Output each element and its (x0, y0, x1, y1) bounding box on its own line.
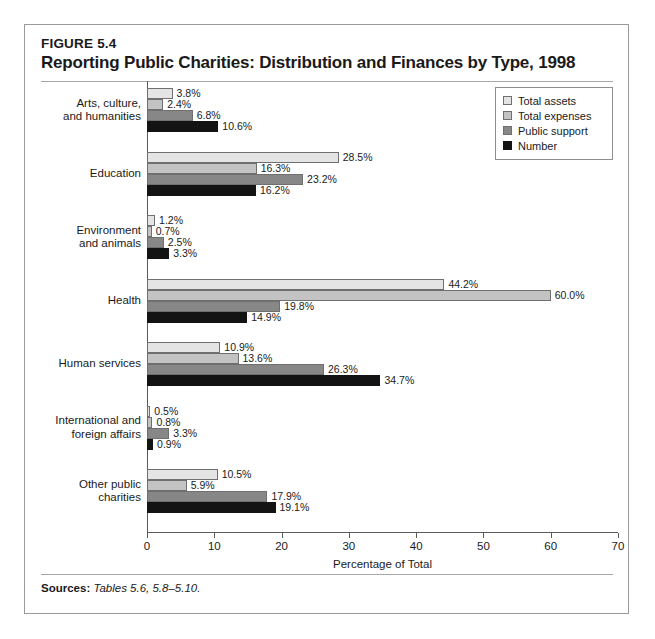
bar-value-label: 6.8% (197, 110, 221, 121)
bar-0 (147, 342, 220, 353)
category-label-line: Arts, culture, (0, 97, 141, 111)
bar-3 (147, 185, 256, 196)
x-axis-line (147, 532, 618, 533)
source-divider (41, 574, 613, 575)
category-label: International andforeign affairs (0, 414, 141, 441)
x-axis-tick (147, 533, 148, 538)
bar-2 (147, 364, 324, 375)
bar-0 (147, 279, 444, 290)
bar-value-label: 16.3% (261, 163, 291, 174)
category-label-line: Human services (0, 357, 141, 371)
category-label-line: and humanities (0, 110, 141, 124)
bar-0 (147, 215, 155, 226)
bar-2 (147, 174, 303, 185)
x-axis-tick (416, 533, 417, 538)
x-axis-tick-label: 20 (262, 540, 302, 552)
category-label: Education (0, 167, 141, 181)
x-axis-tick (618, 533, 619, 538)
category-label: Other publiccharities (0, 478, 141, 505)
bar-2 (147, 110, 193, 121)
bar-value-label: 60.0% (555, 290, 585, 301)
bar-3 (147, 375, 380, 386)
legend-swatch-total-expenses (503, 111, 512, 120)
bar-value-label: 2.4% (167, 99, 191, 110)
bar-2 (147, 237, 164, 248)
x-axis-title: Percentage of Total (147, 558, 618, 570)
bar-value-label: 34.7% (384, 375, 414, 386)
x-axis-tick-label: 0 (127, 540, 167, 552)
legend-label-number: Number (518, 140, 557, 152)
bar-value-label: 16.2% (260, 185, 290, 196)
bar-3 (147, 502, 276, 513)
category-label: Human services (0, 357, 141, 371)
category-label-line: International and (0, 414, 141, 428)
bar-3 (147, 439, 153, 450)
x-axis-tick-label: 70 (598, 540, 638, 552)
bar-value-label: 3.3% (173, 248, 197, 259)
x-axis-tick-label: 10 (194, 540, 234, 552)
bar-1 (147, 417, 152, 428)
bar-value-label: 19.1% (280, 502, 310, 513)
x-axis-tick-label: 50 (463, 540, 503, 552)
legend-item: Total expenses (503, 108, 606, 123)
bar-0 (147, 406, 150, 417)
bar-3 (147, 248, 169, 259)
legend-item: Number (503, 138, 606, 153)
bar-value-label: 10.5% (222, 469, 252, 480)
legend-swatch-total-assets (503, 96, 512, 105)
chart-legend: Total assets Total expenses Public suppo… (495, 87, 613, 160)
legend-swatch-public-support (503, 126, 512, 135)
category-label-line: and animals (0, 237, 141, 251)
bar-value-label: 0.9% (157, 439, 181, 450)
x-axis-tick (214, 533, 215, 538)
bar-value-label: 0.8% (156, 417, 180, 428)
bar-value-label: 19.8% (284, 301, 314, 312)
bar-2 (147, 301, 280, 312)
bar-2 (147, 428, 169, 439)
bar-value-label: 28.5% (343, 152, 373, 163)
bar-3 (147, 121, 218, 132)
bar-2 (147, 491, 267, 502)
category-label: Arts, culture,and humanities (0, 97, 141, 124)
category-label: Health (0, 294, 141, 308)
legend-label-public-support: Public support (518, 125, 588, 137)
bar-value-label: 14.9% (251, 312, 281, 323)
x-axis-tick (551, 533, 552, 538)
category-label-line: charities (0, 491, 141, 505)
bar-3 (147, 312, 247, 323)
bar-1 (147, 226, 152, 237)
bar-1 (147, 290, 551, 301)
legend-item: Public support (503, 123, 606, 138)
category-label-line: Health (0, 294, 141, 308)
x-axis-tick (483, 533, 484, 538)
bar-value-label: 3.3% (173, 428, 197, 439)
category-label: Environmentand animals (0, 224, 141, 251)
bar-1 (147, 480, 187, 491)
sources-line: Sources: Tables 5.6, 5.8–5.10. (41, 582, 200, 594)
category-label-line: foreign affairs (0, 428, 141, 442)
sources-label: Sources: (41, 582, 90, 594)
bar-value-label: 0.5% (154, 406, 178, 417)
x-axis-tick (282, 533, 283, 538)
bar-value-label: 10.6% (222, 121, 252, 132)
figure-frame: FIGURE 5.4 Reporting Public Charities: D… (24, 24, 629, 614)
legend-item: Total assets (503, 93, 606, 108)
x-axis-tick-label: 40 (396, 540, 436, 552)
bar-value-label: 23.2% (307, 174, 337, 185)
bar-value-label: 44.2% (448, 279, 478, 290)
legend-label-total-assets: Total assets (518, 95, 576, 107)
category-label-line: Education (0, 167, 141, 181)
sources-text: Tables 5.6, 5.8–5.10. (93, 582, 200, 594)
legend-label-total-expenses: Total expenses (518, 110, 591, 122)
x-axis-tick-label: 60 (531, 540, 571, 552)
x-axis-tick (349, 533, 350, 538)
bar-1 (147, 163, 257, 174)
x-axis-tick-label: 30 (329, 540, 369, 552)
bar-1 (147, 353, 239, 364)
category-label-line: Other public (0, 478, 141, 492)
bar-1 (147, 99, 163, 110)
bar-value-label: 13.6% (243, 353, 273, 364)
bar-value-label: 5.9% (191, 480, 215, 491)
category-label-line: Environment (0, 224, 141, 238)
bar-0 (147, 152, 339, 163)
